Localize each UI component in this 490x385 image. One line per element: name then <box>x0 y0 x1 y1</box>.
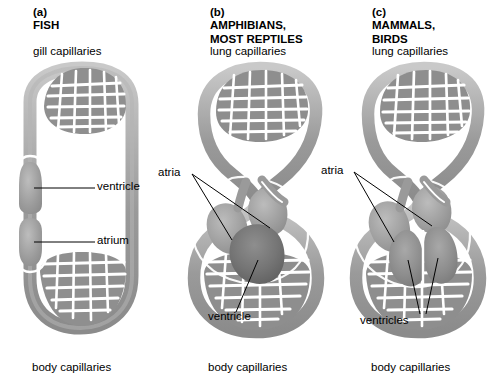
panel-c-header: (c) MAMMALS, BIRDS <box>372 6 490 46</box>
panel-a-letter: (a) <box>33 6 165 19</box>
panel-a-group-name: FISH <box>33 19 165 33</box>
panel-b-callout-atria: atria <box>158 166 180 179</box>
panel-c-callout-ventricles: ventricles <box>360 314 409 327</box>
panel-a-callout-atrium: atrium <box>97 234 129 247</box>
panel-c-bottom-capillaries-label: body capillaries <box>371 360 450 374</box>
panel-amphibians-reptiles: (b) AMPHIBIANS, MOST REPTILES lung capil… <box>160 0 330 385</box>
panel-mammals-birds: (c) MAMMALS, BIRDS lung capillaries <box>325 0 490 385</box>
panel-a-leaders <box>34 188 95 242</box>
panel-c-group-name: MAMMALS, BIRDS <box>372 19 490 46</box>
panel-c-letter: (c) <box>372 6 490 19</box>
panel-a-top-capillaries-label: gill capillaries <box>33 44 101 58</box>
panel-b-letter: (b) <box>210 6 330 19</box>
panel-a-callout-ventricle: ventricle <box>97 180 140 193</box>
panel-b-callout-ventricle: ventricle <box>208 310 251 323</box>
panel-b-group-name: AMPHIBIANS, MOST REPTILES <box>210 19 330 46</box>
circulatory-system-figure: (a) FISH gill capillaries <box>0 0 490 385</box>
panel-a-header: (a) FISH <box>33 6 165 33</box>
panel-a-bottom-capillaries-label: body capillaries <box>32 360 111 374</box>
panel-fish: (a) FISH gill capillaries <box>0 0 165 385</box>
panel-b-lung-capillary-bed <box>216 70 308 142</box>
panel-c-lung-capillary-bed <box>380 70 470 142</box>
panel-b-header: (b) AMPHIBIANS, MOST REPTILES <box>210 6 330 46</box>
panel-b-bottom-capillaries-label: body capillaries <box>208 360 287 374</box>
panel-b-top-capillaries-label: lung capillaries <box>210 44 286 58</box>
panel-c-left-ventricle-shape <box>423 227 457 284</box>
panel-c-callout-atria: atria <box>321 164 343 177</box>
panel-a-diagram <box>0 62 165 362</box>
panel-c-top-capillaries-label: lung capillaries <box>372 44 448 58</box>
